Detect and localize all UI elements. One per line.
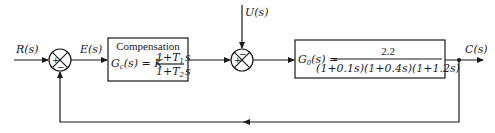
disturbance-label: U(s): [245, 6, 269, 19]
feedback-arrowhead: [243, 119, 250, 125]
block-diagram: R(s) + − E(s) Compensation Gc(s) = K 1+T…: [0, 0, 495, 133]
plant-denominator: (1+0.1s)(1+0.4s)(1+1.2s): [316, 62, 460, 75]
plant-numerator: 2.2: [381, 45, 395, 57]
error-label: E(s): [79, 43, 102, 56]
feedback-entry-arrowhead: [57, 71, 63, 78]
compensator-numerator: 1+T1s: [156, 51, 191, 65]
sj2-minus-sign: −: [239, 49, 247, 59]
summing-junction-2: + −: [231, 49, 253, 71]
sj1-minus-sign: −: [57, 62, 65, 72]
output-label: C(s): [465, 43, 488, 56]
compensator-denominator: 1+T2s: [156, 65, 191, 79]
input-label: R(s): [15, 43, 39, 56]
summing-junction-1: + −: [49, 49, 71, 72]
